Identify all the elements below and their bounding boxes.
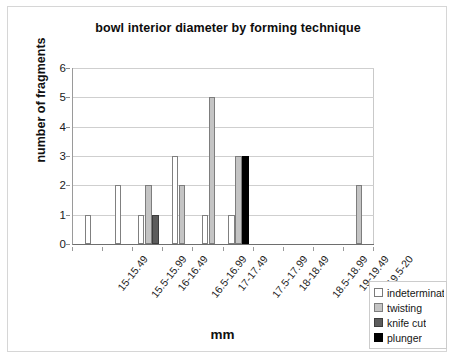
legend-item-plunger[interactable]: plunger bbox=[374, 330, 444, 345]
legend-item-knifecut[interactable]: knife cut bbox=[374, 315, 444, 330]
y-axis-tick-mark bbox=[66, 156, 70, 157]
y-axis-tick-mark bbox=[66, 185, 70, 186]
y-axis-tick-mark bbox=[66, 215, 70, 216]
x-axis-tick-mark bbox=[192, 247, 193, 251]
legend-item-label: knife cut bbox=[387, 317, 426, 329]
y-axis-tick-mark bbox=[66, 127, 70, 128]
bar[interactable] bbox=[242, 156, 249, 244]
legend-item-label: plunger bbox=[387, 332, 422, 344]
legend-item-label: twisting bbox=[387, 302, 422, 314]
gridline bbox=[73, 156, 374, 157]
plot-area bbox=[72, 68, 374, 245]
bar[interactable] bbox=[85, 215, 92, 244]
bar[interactable] bbox=[179, 185, 186, 244]
y-axis-tick-label: 6 bbox=[36, 62, 66, 74]
gridline bbox=[73, 97, 374, 98]
x-axis-tick-mark bbox=[223, 247, 224, 251]
legend-swatch-icon bbox=[374, 333, 383, 342]
x-axis-tick-mark bbox=[102, 247, 103, 251]
y-axis-tick-label: 3 bbox=[36, 150, 66, 162]
y-axis-tick-mark bbox=[66, 68, 70, 69]
x-axis-tick-label: 15-15.49 bbox=[115, 253, 150, 293]
bar[interactable] bbox=[356, 185, 363, 244]
legend-item-label: indeterminate bbox=[387, 287, 444, 299]
legend-item-twisting[interactable]: twisting bbox=[374, 300, 444, 315]
y-axis-tick-mark bbox=[66, 244, 70, 245]
y-axis-tick-label: 5 bbox=[36, 91, 66, 103]
legend-swatch-icon bbox=[374, 303, 383, 312]
chart-title: bowl interior diameter by forming techni… bbox=[8, 21, 448, 35]
bar[interactable] bbox=[115, 185, 122, 244]
y-axis-tick-label: 0 bbox=[36, 238, 66, 250]
x-axis-tick-mark bbox=[132, 247, 133, 251]
x-axis-tick-mark bbox=[373, 247, 374, 251]
bar[interactable] bbox=[235, 156, 242, 244]
x-axis-tick-mark bbox=[313, 247, 314, 251]
legend-swatch-icon bbox=[374, 318, 383, 327]
x-axis-tick-mark bbox=[283, 247, 284, 251]
bar[interactable] bbox=[228, 215, 235, 244]
x-axis-tick-mark bbox=[72, 247, 73, 251]
chart-legend: indeterminatetwistingknife cutplunger bbox=[369, 281, 447, 349]
bar[interactable] bbox=[202, 215, 209, 244]
bar[interactable] bbox=[152, 215, 159, 244]
y-axis-tick-label: 4 bbox=[36, 121, 66, 133]
y-axis-tick-mark bbox=[66, 97, 70, 98]
x-axis-tick-mark bbox=[343, 247, 344, 251]
x-axis-tick-mark bbox=[162, 247, 163, 251]
legend-swatch-icon bbox=[374, 288, 383, 297]
y-axis-tick-label: 2 bbox=[36, 179, 66, 191]
legend-item-indeterminate[interactable]: indeterminate bbox=[374, 285, 444, 300]
gridline bbox=[73, 68, 374, 69]
y-axis-tick-labels: 0123456 bbox=[34, 68, 66, 244]
bar[interactable] bbox=[145, 185, 152, 244]
y-axis-tick-label: 1 bbox=[36, 209, 66, 221]
x-axis-title: mm bbox=[72, 327, 373, 342]
gridline bbox=[73, 127, 374, 128]
bar[interactable] bbox=[172, 156, 179, 244]
bar[interactable] bbox=[209, 97, 216, 244]
x-axis-tick-labels: 15-15.4915.5-15.9916-16.4916.5-16.9917-1… bbox=[72, 247, 382, 327]
x-axis-tick-mark bbox=[253, 247, 254, 251]
chart-frame: bowl interior diameter by forming techni… bbox=[7, 6, 447, 352]
bar[interactable] bbox=[138, 215, 145, 244]
